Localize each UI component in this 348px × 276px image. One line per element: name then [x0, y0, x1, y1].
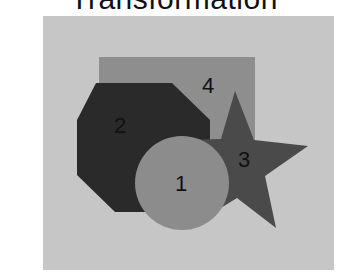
shape-label-3: 3	[238, 147, 250, 172]
shape-label-4: 4	[202, 73, 214, 98]
shapes-canvas: 4 2 3 1	[0, 0, 348, 276]
shape-label-2: 2	[114, 113, 126, 138]
shape-label-1: 1	[175, 171, 187, 196]
